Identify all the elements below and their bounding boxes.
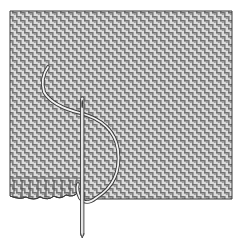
fabric-swatch: [10, 11, 232, 199]
needle: [81, 97, 84, 238]
sewing-illustration: [0, 0, 244, 246]
stitch-diagram: [0, 0, 244, 246]
